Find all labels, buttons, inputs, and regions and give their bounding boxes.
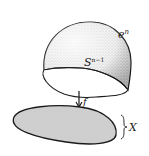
cell-attachment-diagram: en Sn−1 f X — [0, 0, 149, 156]
label-cell: en — [118, 28, 130, 41]
label-space-x: X — [128, 121, 138, 134]
brace-icon — [121, 115, 127, 139]
space-x-disk — [13, 106, 116, 144]
